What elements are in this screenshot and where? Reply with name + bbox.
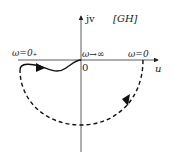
label-omega-infinity: ω→∞ xyxy=(82,50,104,59)
label-omega-0: ω=0 xyxy=(128,50,149,59)
nyquist-plot xyxy=(0,0,174,163)
dashed-arc-arrow-icon xyxy=(122,94,130,106)
solid-curve-arrow-icon xyxy=(36,63,45,72)
solid-nyquist-curve xyxy=(20,60,81,71)
origin-label: 0 xyxy=(82,63,88,73)
horizontal-axis-label: u xyxy=(155,64,161,74)
diagram-title: [GH] xyxy=(113,14,138,24)
label-omega-0-plus: ω=0₊ xyxy=(12,49,37,58)
vertical-axis-label: jv xyxy=(86,14,95,24)
